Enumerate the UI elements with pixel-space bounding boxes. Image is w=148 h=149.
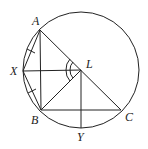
label-C: C	[125, 110, 134, 124]
segment-XL	[23, 70, 81, 71]
segment-AB	[40, 30, 41, 110]
geometry-diagram: A X L B C Y	[0, 0, 148, 149]
segment-AX	[23, 30, 40, 71]
label-X: X	[9, 64, 18, 78]
segment-BL	[41, 70, 81, 110]
label-A: A	[31, 14, 40, 28]
label-L: L	[85, 57, 93, 71]
label-B: B	[31, 113, 39, 127]
label-Y: Y	[77, 130, 85, 144]
